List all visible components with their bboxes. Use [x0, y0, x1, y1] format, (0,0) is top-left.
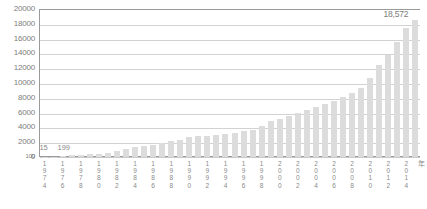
x-tick-digit: 8: [94, 174, 103, 181]
x-tick-digit: 1: [40, 160, 49, 167]
x-tick-digit: 4: [131, 182, 140, 189]
x-axis-labels: 1974197619781980198219841986198819901992…: [40, 160, 420, 209]
x-tick-digit: 6: [58, 182, 67, 189]
bar: [322, 104, 328, 157]
x-tick-digit: 0: [293, 174, 302, 181]
x-tick-label-1998: 1998: [257, 160, 266, 189]
x-tick-digit: 2: [402, 160, 411, 167]
x-tick-digit: 1: [149, 160, 158, 167]
x-tick-digit: 1: [384, 174, 393, 181]
x-tick-label-1996: 1996: [239, 160, 248, 189]
y-tick-label-8000: 8000: [18, 94, 35, 102]
x-tick-digit: 6: [149, 182, 158, 189]
x-tick-digit: 7: [40, 174, 49, 181]
x-tick-digit: 2: [203, 182, 212, 189]
bar: [313, 107, 319, 157]
bar: [268, 121, 274, 157]
x-tick-digit: 1: [239, 160, 248, 167]
x-tick-digit: 0: [94, 182, 103, 189]
x-tick-digit: 9: [149, 167, 158, 174]
x-tick-digit: 8: [149, 174, 158, 181]
x-tick-digit: 0: [330, 174, 339, 181]
x-tick-digit: 2: [112, 182, 121, 189]
bar-value-label: 15: [40, 143, 48, 152]
bar: [213, 135, 219, 157]
x-tick-digit: 0: [311, 167, 320, 174]
bar: [177, 140, 183, 157]
bar-chart: 2000018000160001400012000100008000600040…: [0, 0, 427, 209]
x-tick-label-2012: 2012: [384, 160, 393, 189]
x-tick-digit: 0: [275, 174, 284, 181]
y-tick-label-0: 0: [31, 153, 35, 161]
y-tick-label-20000: 20000: [14, 5, 35, 13]
x-tick-digit: 0: [330, 167, 339, 174]
x-tick-digit: 4: [311, 182, 320, 189]
x-tick-digit: 1: [257, 160, 266, 167]
x-tick-digit: 4: [221, 182, 230, 189]
x-tick-digit: 7: [76, 174, 85, 181]
x-tick-label-2002: 2002: [293, 160, 302, 189]
x-tick-label-2000: 2000: [275, 160, 284, 189]
bar: [340, 97, 346, 157]
x-tick-digit: 1: [366, 174, 375, 181]
bar-value-label: 18,572: [383, 9, 408, 19]
bar: [222, 134, 228, 157]
bar: [42, 157, 48, 158]
x-tick-digit: 0: [275, 182, 284, 189]
y-tick-label-4000: 4000: [18, 123, 35, 131]
bar: [141, 146, 147, 157]
x-tick-digit: 0: [348, 174, 357, 181]
x-tick-digit: 9: [239, 174, 248, 181]
x-tick-digit: 2: [293, 160, 302, 167]
x-tick-digit: 8: [348, 182, 357, 189]
x-tick-digit: 9: [40, 167, 49, 174]
bar: [412, 20, 418, 157]
x-tick-digit: 0: [366, 182, 375, 189]
x-tick-digit: 2: [293, 182, 302, 189]
x-tick-digit: 1: [131, 160, 140, 167]
x-tick-digit: 2: [275, 160, 284, 167]
bar-value-label: 199: [58, 143, 70, 152]
y-tick-label-12000: 12000: [14, 64, 35, 72]
x-tick-digit: 9: [203, 167, 212, 174]
x-tick-digit: 9: [239, 167, 248, 174]
y-axis-labels: 2000018000160001400012000100008000600040…: [0, 0, 37, 209]
x-tick-digit: 1: [167, 160, 176, 167]
y-tick-label-6000: 6000: [18, 109, 35, 117]
x-tick-digit: 9: [185, 167, 194, 174]
x-tick-digit: 9: [167, 167, 176, 174]
x-axis-unit-label: 年: [418, 160, 425, 168]
bar: [105, 153, 111, 157]
y-tick-label-10000: 10000: [14, 79, 35, 87]
x-tick-digit: 1: [203, 160, 212, 167]
x-tick-digit: 9: [185, 174, 194, 181]
bar: [250, 130, 256, 157]
x-tick-digit: 0: [275, 167, 284, 174]
bar: [204, 136, 210, 157]
x-tick-digit: 9: [221, 174, 230, 181]
x-tick-digit: 0: [293, 167, 302, 174]
x-tick-digit: 2: [366, 160, 375, 167]
bar-series: [40, 9, 420, 157]
bar: [304, 110, 310, 157]
x-tick-digit: 7: [58, 174, 67, 181]
bar: [259, 126, 265, 157]
x-tick-digit: 0: [185, 182, 194, 189]
x-tick-digit: 1: [112, 160, 121, 167]
x-tick-digit: 9: [58, 167, 67, 174]
x-tick-label-1978: 1978: [76, 160, 85, 189]
x-tick-digit: 1: [221, 160, 230, 167]
x-tick-digit: 0: [348, 167, 357, 174]
bar: [349, 93, 355, 157]
x-tick-digit: 9: [221, 167, 230, 174]
bar: [51, 157, 57, 158]
x-tick-digit: 6: [330, 182, 339, 189]
bar: [78, 155, 84, 157]
bar: [60, 156, 66, 157]
x-tick-digit: 2: [311, 160, 320, 167]
x-tick-digit: 8: [167, 182, 176, 189]
x-tick-label-2008: 2008: [348, 160, 357, 189]
x-tick-digit: 1: [402, 174, 411, 181]
x-tick-digit: 6: [239, 182, 248, 189]
bar: [367, 78, 373, 157]
